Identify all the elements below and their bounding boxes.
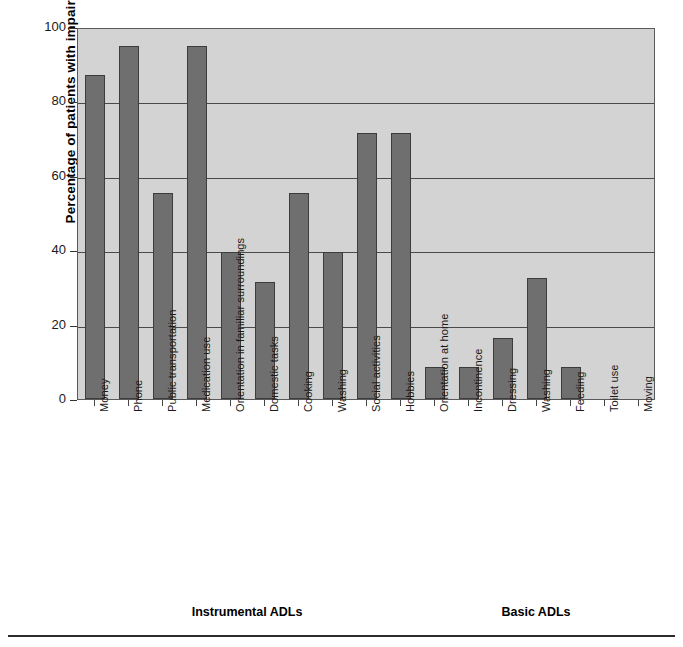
bar-1 <box>119 46 139 399</box>
x-tick-label-13: Washing <box>540 369 552 412</box>
x-tick-label-3: Medication use <box>200 337 212 412</box>
chart-figure: Percentage of patients with impairment 0… <box>0 0 683 647</box>
y-tick-mark-100 <box>70 28 77 29</box>
x-tick-mark-12 <box>502 400 503 406</box>
x-tick-label-0: Money <box>98 378 110 412</box>
x-tick-mark-1 <box>128 400 129 406</box>
x-tick-label-7: Washing <box>336 369 348 412</box>
x-tick-label-2: Public transportation <box>166 310 178 412</box>
x-tick-mark-9 <box>400 400 401 406</box>
x-tick-mark-6 <box>298 400 299 406</box>
bar-9 <box>391 133 411 399</box>
y-tick-label-100: 100 <box>0 19 66 34</box>
y-tick-mark-40 <box>70 251 77 252</box>
bar-0 <box>85 75 105 399</box>
x-tick-mark-10 <box>434 400 435 406</box>
gridline-80 <box>78 103 654 104</box>
group-label-0: Instrumental ADLs <box>192 605 303 619</box>
y-tick-label-80: 80 <box>0 93 66 108</box>
y-tick-mark-60 <box>70 177 77 178</box>
x-tick-mark-8 <box>366 400 367 406</box>
x-tick-label-4: Orientation in familiar surroundings <box>234 238 246 412</box>
x-tick-mark-3 <box>196 400 197 406</box>
bar-6 <box>289 193 309 399</box>
x-tick-mark-5 <box>264 400 265 406</box>
x-tick-mark-2 <box>162 400 163 406</box>
y-axis-title: Percentage of patients with impairment <box>63 0 78 246</box>
y-tick-mark-20 <box>70 326 77 327</box>
y-tick-label-0: 0 <box>0 391 66 406</box>
x-tick-mark-4 <box>230 400 231 406</box>
x-tick-label-15: Toilet use <box>608 365 620 412</box>
x-tick-label-10: Orientation at home <box>438 313 450 412</box>
x-tick-mark-11 <box>468 400 469 406</box>
x-tick-label-1: Phone <box>132 380 144 412</box>
x-tick-label-11: Incontinence <box>472 348 484 412</box>
x-tick-mark-7 <box>332 400 333 406</box>
y-tick-mark-80 <box>70 102 77 103</box>
y-tick-label-60: 60 <box>0 168 66 183</box>
x-tick-mark-16 <box>638 400 639 406</box>
footer-rule <box>8 635 675 637</box>
plot-area <box>77 28 655 400</box>
x-tick-label-5: Domestic tasks <box>268 336 280 412</box>
x-tick-label-9: Hobbies <box>404 371 416 412</box>
x-tick-label-16: Moving <box>642 376 654 412</box>
x-tick-label-8: Social activities <box>370 335 382 412</box>
group-label-1: Basic ADLs <box>501 605 570 619</box>
x-tick-mark-0 <box>94 400 95 406</box>
y-tick-label-20: 20 <box>0 317 66 332</box>
x-tick-label-6: Cooking <box>302 371 314 412</box>
y-tick-label-40: 40 <box>0 242 66 257</box>
x-tick-mark-15 <box>604 400 605 406</box>
x-tick-mark-13 <box>536 400 537 406</box>
x-tick-label-14: Feeding <box>574 372 586 412</box>
y-tick-mark-0 <box>70 400 77 401</box>
x-tick-label-12: Dressing <box>506 368 518 412</box>
x-tick-mark-14 <box>570 400 571 406</box>
